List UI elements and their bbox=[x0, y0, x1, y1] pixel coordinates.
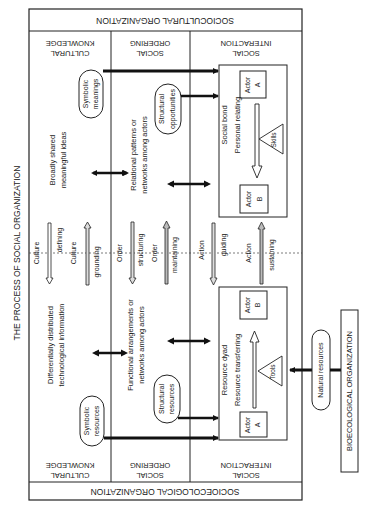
svg-text:Structural: Structural bbox=[158, 94, 165, 124]
svg-text:defining: defining bbox=[56, 228, 64, 253]
svg-text:Culture: Culture bbox=[70, 242, 77, 265]
svg-text:A: A bbox=[254, 422, 261, 427]
tools-triangle: Tools bbox=[258, 356, 282, 386]
column-headers-bottom: CULTURAL KNOWLEDGE SOCIAL ORDERING SOCIA… bbox=[46, 461, 272, 480]
order-processes: Order structuring Order maintaining bbox=[116, 221, 179, 284]
svg-text:INTERACTION: INTERACTION bbox=[221, 39, 272, 48]
svg-text:A: A bbox=[254, 82, 261, 87]
relational-patterns-text: Relational patterns or networks among ac… bbox=[129, 116, 149, 194]
actor-b-box-upper: Actor B bbox=[240, 185, 268, 213]
svg-text:guiding: guiding bbox=[220, 234, 228, 257]
svg-text:CULTURAL: CULTURAL bbox=[50, 49, 89, 58]
action-processes: Action guiding Action sustaining bbox=[198, 222, 276, 285]
actor-a-box-upper: Actor A bbox=[240, 71, 266, 98]
svg-text:Personal relating: Personal relating bbox=[233, 97, 242, 153]
svg-text:sustaining: sustaining bbox=[268, 239, 276, 271]
actor-a-box-lower: Actor A bbox=[240, 412, 267, 437]
svg-text:BIOECOLOGICAL ORGANIZATION: BIOECOLOGICAL ORGANIZATION bbox=[345, 331, 354, 451]
svg-text:ORDERING: ORDERING bbox=[130, 39, 171, 48]
svg-text:Functional arrangements or: Functional arrangements or bbox=[126, 299, 135, 391]
structural-opportunities-pill: Structural opportunities bbox=[155, 84, 181, 134]
svg-text:meaningful ideas: meaningful ideas bbox=[59, 131, 68, 188]
actor-b-box-lower: Actor B bbox=[240, 291, 267, 319]
band-bottom-label: SOCIOECOLOGICAL ORGANIZATION bbox=[91, 487, 240, 497]
svg-text:Resource dyad: Resource dyad bbox=[220, 345, 229, 395]
social-organization-diagram: THE PROCESS OF SOCIAL ORGANIZATION SOCIO… bbox=[0, 0, 373, 528]
differentially-distributed-text: Differentially distributed technological… bbox=[46, 304, 66, 387]
svg-text:Order: Order bbox=[116, 243, 123, 262]
svg-text:Symbolic: Symbolic bbox=[83, 406, 91, 435]
svg-text:Culture: Culture bbox=[33, 242, 40, 265]
svg-text:B: B bbox=[256, 196, 263, 201]
svg-text:SOCIAL: SOCIAL bbox=[136, 471, 164, 480]
svg-text:Order: Order bbox=[151, 243, 158, 262]
svg-text:opportunities: opportunities bbox=[169, 88, 177, 129]
bioecological-organization-box: BIOECOLOGICAL ORGANIZATION bbox=[341, 310, 358, 472]
skills-triangle: Skills bbox=[259, 124, 283, 154]
svg-text:meanings: meanings bbox=[92, 78, 100, 109]
resource-dyad-box: Resource dyad Resource transferring Acto… bbox=[219, 287, 287, 440]
culture-processes: Culture defining Culture grounding bbox=[33, 222, 101, 285]
svg-text:Differentially distributed: Differentially distributed bbox=[46, 306, 55, 384]
svg-text:Broadly shared: Broadly shared bbox=[48, 135, 57, 185]
column-headers-top: CULTURAL KNOWLEDGE SOCIAL ORDERING SOCIA… bbox=[46, 39, 272, 58]
svg-text:Actor: Actor bbox=[244, 296, 251, 313]
symbolic-resources-pill: Symbolic resources bbox=[80, 396, 104, 446]
svg-text:Actor: Actor bbox=[244, 416, 251, 433]
band-top-label: SOCIOCULTURAL ORGANIZATION bbox=[96, 16, 234, 26]
svg-text:ORDERING: ORDERING bbox=[130, 461, 171, 470]
svg-text:Actor: Actor bbox=[244, 76, 251, 93]
svg-text:Relational patterns or: Relational patterns or bbox=[129, 119, 138, 191]
svg-text:B: B bbox=[254, 302, 261, 307]
svg-text:Actor: Actor bbox=[245, 190, 252, 207]
resource-transferring-arrow bbox=[250, 331, 259, 408]
svg-text:Resource transferring: Resource transferring bbox=[233, 334, 242, 406]
svg-text:networks among actors: networks among actors bbox=[137, 306, 146, 384]
svg-text:Tools: Tools bbox=[269, 364, 276, 380]
svg-text:Action: Action bbox=[245, 243, 252, 263]
svg-text:SOCIAL: SOCIAL bbox=[232, 471, 260, 480]
broadly-shared-text: Broadly shared meaningful ideas bbox=[48, 131, 68, 188]
svg-text:Skills: Skills bbox=[270, 132, 277, 148]
functional-arrangements-text: Functional arrangements or networks amon… bbox=[126, 299, 146, 391]
svg-text:Structural: Structural bbox=[158, 384, 165, 414]
svg-text:maintaining: maintaining bbox=[171, 237, 179, 273]
symbolic-meanings-pill: Symbolic meanings bbox=[79, 70, 103, 118]
svg-text:resources: resources bbox=[168, 383, 175, 414]
personal-relating-arrow bbox=[252, 104, 262, 178]
svg-text:grounding: grounding bbox=[93, 246, 101, 277]
svg-text:Action: Action bbox=[198, 240, 205, 260]
svg-text:KNOWLEDGE: KNOWLEDGE bbox=[46, 461, 95, 470]
structural-resources-pill: Structural resources bbox=[154, 375, 180, 423]
svg-text:networks among actors: networks among actors bbox=[140, 116, 149, 194]
svg-text:technological information: technological information bbox=[57, 304, 66, 387]
svg-text:resources: resources bbox=[93, 405, 100, 436]
svg-text:Social bond: Social bond bbox=[220, 105, 229, 144]
svg-text:SOCIAL: SOCIAL bbox=[232, 49, 260, 58]
diagram-title: THE PROCESS OF SOCIAL ORGANIZATION bbox=[12, 166, 22, 341]
svg-text:INTERACTION: INTERACTION bbox=[221, 461, 272, 470]
natural-resources-pill: Natural resources bbox=[312, 330, 330, 410]
svg-text:structuring: structuring bbox=[137, 234, 145, 267]
svg-text:KNOWLEDGE: KNOWLEDGE bbox=[46, 39, 95, 48]
svg-text:CULTURAL: CULTURAL bbox=[50, 471, 89, 480]
svg-text:SOCIAL: SOCIAL bbox=[136, 49, 164, 58]
svg-text:Symbolic: Symbolic bbox=[82, 79, 90, 108]
svg-text:Natural resources: Natural resources bbox=[317, 342, 324, 398]
social-bond-box: Social bond Personal relating Actor A Sk… bbox=[219, 65, 287, 217]
